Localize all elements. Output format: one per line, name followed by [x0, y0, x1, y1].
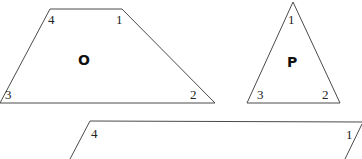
triangle-p-vertex-1-label: 1	[288, 12, 295, 27]
trapezoid-o-vertex-1-label: 1	[116, 12, 123, 27]
trapezoid-o-vertex-3-label: 3	[5, 87, 12, 102]
parallelogram-q: 4 1	[70, 121, 362, 159]
parallelogram-q-left-top-edges	[70, 121, 362, 159]
trapezoid-o-name: O	[78, 52, 90, 68]
trapezoid-o-vertex-2-label: 2	[190, 87, 197, 102]
triangle-p: 1 2 3 P	[247, 2, 340, 103]
parallelogram-q-vertex-1-label: 1	[346, 127, 353, 142]
triangle-p-name: P	[287, 54, 297, 70]
trapezoid-o-vertex-4-label: 4	[48, 12, 55, 27]
triangle-p-vertex-2-label: 2	[322, 87, 329, 102]
trapezoid-o-outline	[0, 9, 215, 103]
trapezoid-o: 4 1 3 2 O	[0, 9, 215, 103]
triangle-p-vertex-3-label: 3	[257, 87, 264, 102]
shapes-diagram: 4 1 3 2 O 1 2 3 P 4 1	[0, 0, 362, 159]
parallelogram-q-vertex-4-label: 4	[91, 126, 98, 141]
